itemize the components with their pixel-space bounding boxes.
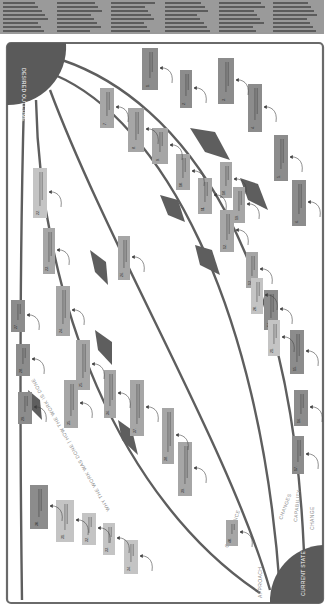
activity-box-text-line — [91, 517, 92, 527]
activity-box-text-line — [299, 184, 300, 214]
activity-box-text-line — [109, 527, 110, 543]
flow-arrow — [264, 107, 276, 122]
activity-box-label: 24. — [59, 328, 63, 333]
activity-box-label: 18. — [222, 190, 226, 195]
arrowhead-icon — [240, 531, 243, 534]
activity-box-text-line — [241, 191, 242, 205]
arrowhead-icon — [310, 406, 313, 409]
arrowhead-icon — [192, 170, 195, 173]
activity-box-text-line — [297, 334, 298, 362]
desired-outcome-label: DESIRED OUTCOME — [21, 68, 27, 122]
activity-box-text-line — [49, 232, 50, 262]
arrowhead-icon — [306, 453, 309, 456]
activity-box-label: 4. — [251, 126, 255, 129]
arrowhead-icon — [282, 336, 285, 339]
activity-box-text-line — [301, 184, 302, 208]
arrowhead-icon — [76, 519, 79, 522]
activity-box-text-line — [168, 412, 169, 452]
milestone-marker — [95, 330, 112, 365]
activity-box-text-line — [298, 440, 299, 462]
activity-box-label: 16. — [297, 418, 301, 423]
activity-box-text-line — [252, 256, 253, 276]
activity-box-text-line — [185, 446, 186, 484]
activity-box-text-line — [40, 172, 41, 206]
activity-box-text-line — [228, 62, 229, 86]
activity-box-label: 39. — [181, 488, 185, 493]
activity-box-label: 32. — [85, 537, 89, 542]
activity-box-label: 34. — [127, 566, 131, 571]
flow-arrow — [118, 393, 130, 408]
activity-box-text-line — [85, 344, 86, 372]
flow-arrow — [80, 403, 92, 418]
activity-box-text-line — [126, 240, 127, 262]
activity-box-text-line — [107, 92, 108, 116]
activity-box-text-line — [259, 282, 260, 296]
activity-box-text-line — [226, 166, 227, 186]
activity-box-label: 5. — [277, 175, 281, 178]
flow-arrow — [306, 351, 318, 366]
activity-box-text-line — [254, 256, 255, 270]
current-state-label: CURRENT STATE — [300, 551, 306, 596]
activity-box-text-line — [67, 504, 68, 524]
activity-box-text-line — [89, 517, 90, 533]
activity-box-label: 7. — [103, 122, 107, 125]
activity-box-text-line — [51, 232, 52, 256]
flow-arrow — [306, 454, 318, 469]
activity-box-text-line — [83, 344, 84, 378]
activity-box-text-line — [170, 412, 171, 446]
arrowhead-icon — [146, 128, 149, 131]
activity-box-label: 8. — [132, 146, 136, 149]
flow-arrow — [308, 202, 320, 217]
arrowhead-icon — [57, 249, 60, 252]
activity-box-text-line — [124, 240, 125, 268]
activity-box-label: 29. — [21, 416, 25, 421]
activity-box-label: 23. — [45, 266, 49, 271]
activity-box-text-line — [27, 396, 28, 406]
activity-box-text-line — [63, 290, 64, 324]
arrowhead-icon — [118, 392, 121, 395]
desired-outcome-corner — [7, 43, 66, 105]
arrowhead-icon — [92, 363, 95, 366]
activity-box-text-line — [109, 92, 110, 110]
activity-box-text-line — [226, 62, 227, 92]
arrowhead-icon — [306, 350, 309, 353]
lane-label-changes: CHANGES — [277, 492, 292, 520]
flow-arrow — [132, 257, 144, 272]
arrowhead-icon — [247, 203, 250, 206]
activity-box-text-line — [71, 384, 72, 416]
arrowhead-icon — [236, 79, 239, 82]
arrowhead-icon — [290, 156, 293, 159]
arrowhead-icon — [72, 309, 75, 312]
activity-box-text-line — [232, 524, 233, 534]
activity-box-text-line — [281, 139, 282, 169]
flow-arrow — [27, 315, 39, 330]
activity-box-text-line — [276, 324, 277, 338]
activity-box-label: 20. — [253, 306, 257, 311]
flow-arrow — [140, 556, 152, 571]
activity-box-label: 33. — [105, 547, 109, 552]
activity-box-text-line — [20, 304, 21, 314]
activity-box-label: 26. — [120, 272, 124, 277]
milestone-marker — [160, 195, 185, 222]
activity-box-text-line — [303, 394, 304, 408]
arrowhead-icon — [234, 178, 237, 181]
flow-arrow — [194, 468, 206, 483]
milestone-marker — [195, 245, 220, 275]
activity-box-text-line — [41, 489, 42, 511]
lane-label-approach: APPROACH — [257, 567, 263, 598]
activity-box-text-line — [137, 384, 138, 424]
activity-box-text-line — [229, 214, 230, 234]
activity-box-label: 12. — [223, 244, 227, 249]
arrowhead-icon — [146, 406, 149, 409]
activity-box-text-line — [228, 166, 229, 180]
activity-box-label: 27. — [14, 324, 18, 329]
activity-box-label: 38. — [164, 456, 168, 461]
activity-box-label: 19. — [235, 215, 239, 220]
arrowhead-icon — [280, 308, 283, 311]
activity-box-text-line — [150, 52, 151, 78]
activity-box-label: 28. — [19, 368, 23, 373]
lane-label-change: CHANGE — [309, 506, 315, 530]
activity-box-text-line — [65, 290, 66, 318]
arrowhead-icon — [49, 191, 52, 194]
activity-box-text-line — [111, 527, 112, 537]
